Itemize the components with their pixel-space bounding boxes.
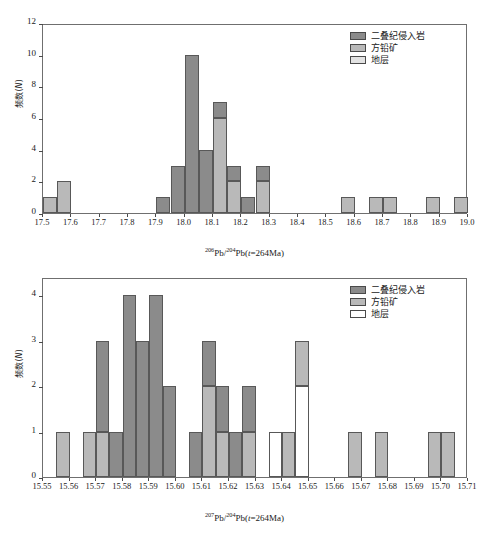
x-tick-label: 18.1 [205, 218, 220, 227]
legend-swatch-permian [350, 32, 366, 40]
y-tick-mark [39, 387, 43, 388]
x-tick-label: 15.63 [245, 482, 264, 491]
legend-label: 方铅矿 [371, 43, 398, 53]
legend-item[interactable]: 地层 [350, 308, 425, 319]
x-tick-label: 18.3 [261, 218, 276, 227]
histogram-bar [242, 432, 255, 477]
histogram-bar [341, 197, 355, 213]
y-tick-label: 12 [27, 17, 36, 26]
x-tick-label: 15.60 [165, 482, 184, 491]
histogram-bar [56, 432, 69, 477]
histogram-bar [454, 197, 468, 213]
x-tick-label: 15.69 [404, 482, 423, 491]
histogram-bar [96, 432, 109, 477]
x-tick-label: 18.0 [176, 218, 191, 227]
histogram-bar [96, 341, 109, 432]
x-tick-label: 17.5 [35, 218, 50, 227]
y-tick-label: 4 [32, 289, 37, 298]
y-tick-label: 2 [32, 380, 37, 389]
y-tick-mark [39, 342, 43, 343]
y-tick-mark [39, 151, 43, 152]
y-axis-pb206: 024681012 [42, 24, 43, 214]
legend-pb206: 二叠纪侵入岩方铅矿地层 [350, 30, 425, 65]
x-tick-label: 18.6 [346, 218, 361, 227]
x-tick-label: 15.68 [378, 482, 397, 491]
legend-item[interactable]: 二叠纪侵入岩 [350, 30, 425, 41]
x-tick-label: 18.5 [318, 218, 333, 227]
histogram-bar [109, 432, 122, 477]
histogram-bar [202, 341, 215, 386]
y-tick-label: 0 [32, 207, 37, 216]
histogram-bar [43, 197, 57, 213]
legend-swatch-galena [350, 298, 366, 306]
legend-item[interactable]: 方铅矿 [350, 42, 425, 53]
legend-label: 地层 [371, 309, 389, 319]
legend-item[interactable]: 地层 [350, 54, 425, 65]
y-tick-label: 8 [32, 80, 37, 89]
x-tick-label: 15.62 [218, 482, 237, 491]
legend-item[interactable]: 二叠纪侵入岩 [350, 284, 425, 295]
x-axis-label-pb206: 206Pb/204Pb(t=264Ma) [0, 246, 489, 258]
histogram-bar [216, 386, 229, 431]
histogram-bar [123, 295, 136, 477]
x-tick-label: 17.7 [91, 218, 106, 227]
y-tick-label: 0 [32, 471, 37, 480]
histogram-bar [227, 181, 241, 213]
histogram-bar [213, 102, 227, 118]
x-tick-label: 18.2 [233, 218, 248, 227]
legend-item[interactable]: 方铅矿 [350, 296, 425, 307]
x-tick-label: 15.67 [351, 482, 370, 491]
legend-label: 方铅矿 [371, 297, 398, 307]
x-tick-label: 15.65 [298, 482, 317, 491]
histogram-bar [369, 197, 383, 213]
histogram-bar [185, 55, 199, 213]
legend-swatch-galena [350, 44, 366, 52]
legend-swatch-permian [350, 286, 366, 294]
x-axis-label-pb207: 207Pb/204Pb(t=264Ma) [0, 511, 489, 523]
x-tick-label: 18.7 [375, 218, 390, 227]
histogram-bar [156, 197, 170, 213]
histogram-bar [295, 386, 308, 477]
legend-pb207: 二叠纪侵入岩方铅矿地层 [350, 284, 425, 319]
y-tick-label: 2 [32, 175, 37, 184]
histogram-bar [57, 181, 71, 213]
histogram-bar [216, 432, 229, 477]
x-tick-label: 15.59 [139, 482, 158, 491]
x-tick-label: 15.56 [59, 482, 78, 491]
x-axis-pb207: 15.5515.5615.5715.5815.5915.6015.6115.62… [42, 478, 467, 498]
x-tick-label: 15.55 [32, 482, 51, 491]
chart-panel-pb207: 01234 15.5515.5615.5715.5815.5915.6015.6… [0, 266, 489, 533]
histogram-bar [282, 432, 295, 477]
x-tick-label: 17.6 [63, 218, 78, 227]
plot-area-pb206: 024681012 17.517.617.717.817.918.018.118… [0, 0, 489, 266]
y-axis-label-pb207: 频数(N) [13, 349, 24, 377]
histogram-bar [199, 150, 213, 213]
y-tick-label: 10 [27, 49, 36, 58]
x-tick-label: 18.9 [431, 218, 446, 227]
histogram-bar [269, 432, 282, 477]
histogram-bar [202, 386, 215, 477]
histogram-bar [242, 386, 255, 431]
x-tick-label: 17.9 [148, 218, 163, 227]
histogram-bar [375, 432, 388, 477]
x-axis-pb206: 17.517.617.717.817.918.018.118.218.318.4… [42, 214, 467, 234]
legend-label: 二叠纪侵入岩 [371, 285, 425, 295]
chart-panel-pb206: 024681012 17.517.617.717.817.918.018.118… [0, 0, 489, 266]
histogram-bar [136, 341, 149, 477]
x-tick-label: 15.70 [431, 482, 450, 491]
legend-swatch-strata [350, 56, 366, 64]
histogram-bar [295, 341, 308, 386]
histogram-bar [426, 197, 440, 213]
y-tick-mark [39, 296, 43, 297]
y-tick-mark [39, 433, 43, 434]
histogram-bar [229, 432, 242, 477]
histogram-bar [213, 118, 227, 213]
histogram-bar [189, 432, 202, 477]
histogram-bar [171, 166, 185, 214]
histogram-bar [348, 432, 361, 477]
histogram-bar [428, 432, 441, 477]
x-tick-label: 15.66 [325, 482, 344, 491]
histogram-bar [256, 181, 270, 213]
x-tick-label: 18.8 [403, 218, 418, 227]
y-tick-mark [39, 56, 43, 57]
